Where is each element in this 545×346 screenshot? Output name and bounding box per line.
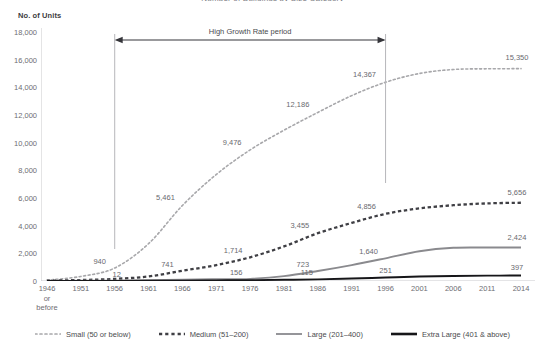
legend-item-medium[interactable]: Medium (51–200) <box>159 330 249 339</box>
legend-swatch-medium <box>159 330 185 338</box>
data-point-label: 2,424 <box>508 233 527 242</box>
legend-item-large[interactable]: Large (201–400) <box>276 330 362 339</box>
data-point-label: 14,367 <box>353 70 376 79</box>
y-tick-label: 10,000 <box>14 138 37 147</box>
legend-swatch-small <box>35 330 61 338</box>
y-tick-label: 14,000 <box>14 83 37 92</box>
data-point-label: 251 <box>379 265 392 274</box>
y-axis-title: No. of Units <box>18 11 61 20</box>
legend-label-large: Large (201–400) <box>307 330 362 339</box>
data-point-label: 156 <box>230 267 243 276</box>
annotation-marks <box>115 34 386 249</box>
data-point-label: 12,186 <box>286 100 309 109</box>
plot-svg <box>41 28 535 281</box>
data-point-label: 940 <box>93 256 106 265</box>
x-tick-label: 1996 <box>377 284 394 294</box>
legend-item-xlarge[interactable]: Extra Large (401 & above) <box>391 330 510 339</box>
data-point-label: 9,476 <box>223 137 242 146</box>
data-point-label: 15,350 <box>506 52 529 61</box>
x-tick-label: 2011 <box>479 284 495 294</box>
x-tick-label: 2014 <box>513 284 530 294</box>
data-point-label: 1,714 <box>224 246 243 255</box>
legend-item-small[interactable]: Small (50 or below) <box>35 330 131 339</box>
x-tick-label: 1971 <box>208 284 225 294</box>
series-lines <box>47 69 521 281</box>
x-tick-label: 1981 <box>276 284 293 294</box>
data-point-label: 5,656 <box>508 187 527 196</box>
annotation-label: High Growth Rate period <box>209 27 292 36</box>
y-axis-tick-labels: 02,0004,0006,0008,00010,00012,00014,0001… <box>0 28 37 281</box>
data-point-label: 1,640 <box>359 247 378 256</box>
data-point-label: 5,461 <box>156 193 175 202</box>
chart-legend: Small (50 or below)Medium (51–200)Large … <box>0 325 545 343</box>
data-point-label: 115 <box>301 268 313 277</box>
y-tick-label: 16,000 <box>14 55 37 64</box>
x-axis-tick-labels: 1946orbefore1951195619611966197119761981… <box>41 284 535 322</box>
annotation-arrowhead-left <box>115 37 123 43</box>
plot-area: High Growth Rate period9405,4619,47612,1… <box>41 28 535 281</box>
x-tick-label: 1976 <box>242 284 259 294</box>
legend-label-xlarge: Extra Large (401 & above) <box>422 330 510 339</box>
legend-swatch-large <box>276 330 302 338</box>
data-point-label: 741 <box>161 259 174 268</box>
y-tick-label: 2,000 <box>18 249 37 258</box>
chart-root: Number of Buildings by Size Category No.… <box>0 0 545 346</box>
x-tick-label: 1956 <box>106 284 123 294</box>
x-tick-label: 2001 <box>411 284 428 294</box>
x-tick-label: 1966 <box>174 284 191 294</box>
y-tick-label: 6,000 <box>18 194 37 203</box>
y-tick-label: 18,000 <box>14 28 37 37</box>
legend-swatch-xlarge <box>391 330 417 338</box>
x-tick-label: 2006 <box>445 284 462 294</box>
data-point-label: 12 <box>113 269 121 278</box>
data-point-label: 4,856 <box>357 201 376 210</box>
legend-label-medium: Medium (51–200) <box>190 330 249 339</box>
y-tick-label: 12,000 <box>14 111 37 120</box>
legend-label-small: Small (50 or below) <box>66 330 131 339</box>
data-point-label: 3,455 <box>290 221 309 230</box>
x-tick-label: 1991 <box>343 284 360 294</box>
chart-title: Number of Buildings by Size Category <box>0 0 545 1</box>
data-point-label: 397 <box>511 262 524 271</box>
y-tick-label: 8,000 <box>18 166 37 175</box>
x-tick-label: 1951 <box>73 284 90 294</box>
y-tick-label: 4,000 <box>18 221 37 230</box>
x-tick-label: 1961 <box>140 284 157 294</box>
x-tick-label: 1946orbefore <box>36 284 57 313</box>
x-tick-label: 1986 <box>310 284 327 294</box>
annotation-arrowhead-right <box>378 37 386 43</box>
